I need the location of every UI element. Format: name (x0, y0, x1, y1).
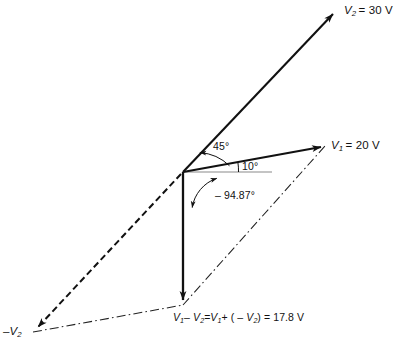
label-angle-45: 45° (213, 141, 229, 152)
label-v2-subscript: 2 (352, 9, 356, 18)
label-v1: V1 = 20 V (331, 140, 380, 153)
label-angle-10: 10° (242, 161, 258, 172)
label-v1-value: = 20 V (346, 139, 380, 151)
label-neg-v2-subscript: 2 (17, 330, 21, 339)
eq-plus-open: + ( – (221, 311, 246, 323)
label-v2-value: = 30 V (359, 4, 393, 16)
label-angle-neg-9487: – 94.87° (215, 190, 255, 201)
angle-arc-10 (238, 162, 239, 172)
label-v1-symbol: V (331, 139, 339, 151)
label-v1-subscript: 1 (339, 144, 343, 153)
label-v2: V2 = 30 V (344, 5, 393, 18)
label-v2-symbol: V (344, 4, 352, 16)
angle-arc-neg-9487 (192, 178, 217, 207)
phasor-neg-v2 (38, 174, 181, 327)
label-neg-v2: –V2 (3, 326, 22, 339)
label-resultant-equation: V1– V2=V1+ ( – V2) = 17.8 V (173, 312, 304, 325)
eq-minus: – (184, 311, 193, 323)
eq-tail: ) = 17.8 V (257, 311, 304, 323)
